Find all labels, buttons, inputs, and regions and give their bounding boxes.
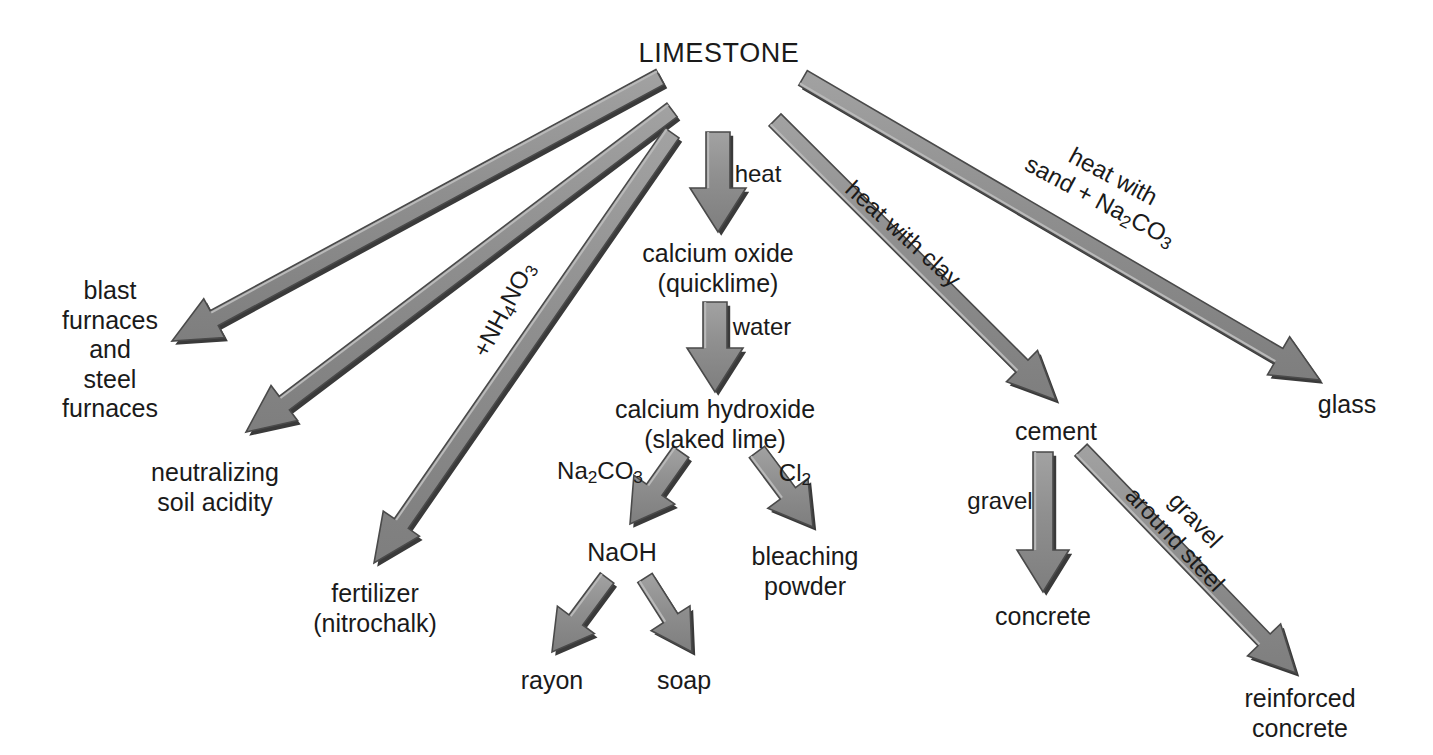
node-cement: cement [1015,417,1097,447]
flow-arrow-cement-to-concrete [1017,452,1072,596]
edge-label-cl2_in: Cl2 [779,459,811,490]
node-glass: glass [1318,390,1376,420]
node-fertilizer: fertilizer(nitrochalk) [313,579,437,638]
node-soap: soap [657,666,711,696]
node-blast_furnaces: blastfurnacesandsteelfurnaces [62,276,158,424]
arrow-highlight [211,71,657,312]
limestone-flow-diagram: LIMESTONEblastfurnacesandsteelfurnacesne… [0,0,1433,755]
node-bleaching_powder: bleachingpowder [751,542,858,601]
arrow-body [638,573,692,652]
node-naoh: NaOH [587,538,656,568]
node-reinforced_concrete: reinforcedconcrete [1244,684,1355,743]
flow-arrow-naoh-to-soap [638,573,695,655]
arrow-highlight [771,124,1018,370]
node-calcium_hydroxide: calcium hydroxide(slaked lime) [615,395,815,454]
node-neutralizing: neutralizingsoil acidity [151,458,279,517]
flow-arrow-naoh-to-rayon [552,573,617,656]
edge-label-gravel: gravel [967,487,1032,515]
edge-label-heat: heat [735,160,782,188]
arrow-layer [0,0,1433,755]
node-concrete: concrete [995,602,1091,632]
node-calcium_oxide: calcium oxide(quicklime) [642,239,793,298]
node-limestone: LIMESTONE [639,38,800,70]
edge-label-water: water [733,313,792,341]
node-rayon: rayon [521,666,584,696]
edge-label-na2co3_in: Na2CO3 [557,457,643,488]
